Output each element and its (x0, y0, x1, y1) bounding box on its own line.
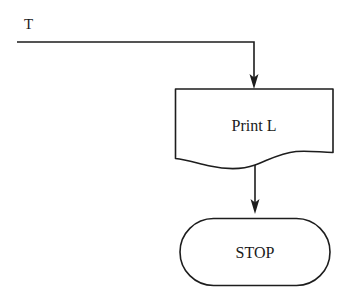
edge-label-entry: T (24, 16, 33, 32)
entry-connector-path (17, 42, 254, 80)
node-print-label: Print L (232, 117, 277, 134)
edge-entry-branch (17, 42, 259, 89)
node-stop-label: STOP (236, 244, 275, 261)
edge-print-to-stop (251, 165, 260, 214)
flowchart-canvas: T Print L STOP (0, 0, 361, 304)
node-stop[interactable]: STOP (180, 219, 330, 286)
flowchart-svg: T Print L STOP (0, 0, 361, 304)
node-print[interactable]: Print L (176, 89, 334, 169)
